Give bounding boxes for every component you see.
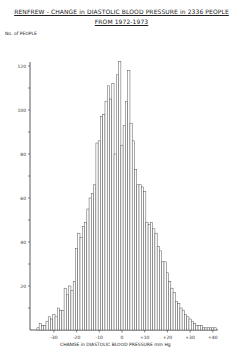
histogram-bar <box>73 282 75 330</box>
y-tick-label: 20 <box>20 284 26 289</box>
histogram-bar <box>198 326 200 330</box>
histogram-bar <box>200 326 202 330</box>
histogram-bar <box>189 319 191 330</box>
histogram-bar <box>75 249 77 330</box>
histogram-bar <box>60 310 62 330</box>
histogram-bar <box>87 209 89 330</box>
histogram-bar <box>146 222 148 330</box>
histogram-bar <box>48 317 50 330</box>
histogram-bar <box>159 251 161 330</box>
histogram-bar <box>62 310 64 330</box>
histogram-bar <box>207 328 209 330</box>
histogram-bar <box>194 323 196 330</box>
histogram-bar <box>141 187 143 330</box>
x-tick-label: -10 <box>96 335 103 340</box>
histogram-bar <box>169 282 171 330</box>
histogram-bar <box>125 101 127 330</box>
x-tick-label: +20 <box>163 335 173 340</box>
x-tick-label: +30 <box>185 335 195 340</box>
histogram-bar <box>107 86 109 330</box>
histogram-bar <box>187 317 189 330</box>
y-tick-label: 40 <box>20 240 26 245</box>
histogram-bar <box>162 262 164 330</box>
histogram-bar <box>164 262 166 330</box>
histogram-bar <box>112 84 114 330</box>
histogram-bar <box>78 233 80 330</box>
histogram-bar <box>98 141 100 330</box>
histogram-bar <box>130 123 132 330</box>
x-axis-label: CHANGE in DIASTOLIC BLOOD PRESSURE mm Hg <box>60 342 171 347</box>
y-tick-label: 120 <box>17 64 26 69</box>
histogram-bar <box>191 321 193 330</box>
y-tick-label: 80 <box>20 152 26 157</box>
histogram-bar <box>44 326 46 330</box>
histogram-bar <box>57 308 59 330</box>
histogram-bar <box>50 319 52 330</box>
x-tick-label: 0 <box>121 335 124 340</box>
histogram-bar <box>103 114 105 330</box>
histogram-bar <box>180 308 182 330</box>
histogram-bar <box>94 185 96 330</box>
histogram-bar <box>71 290 73 330</box>
histogram-bar <box>37 328 39 330</box>
histogram-bar <box>46 321 48 330</box>
histogram-bar <box>212 328 214 330</box>
histogram-bar <box>41 326 43 330</box>
histogram-bar <box>203 328 205 330</box>
histogram-bar <box>105 101 107 330</box>
histogram-bar <box>64 288 66 330</box>
histogram-bar <box>137 185 139 330</box>
histogram-bar <box>214 328 216 330</box>
histogram-bar <box>55 317 57 330</box>
histogram-bar <box>119 62 121 330</box>
histogram-bar <box>66 295 68 330</box>
histogram-bar <box>69 286 71 330</box>
histogram-bar <box>85 222 87 330</box>
histogram-bar <box>184 315 186 330</box>
histogram-bar <box>171 288 173 330</box>
histogram-bar <box>205 328 207 330</box>
histogram-bar <box>173 293 175 330</box>
x-tick-label: -20 <box>73 335 80 340</box>
histogram-bar <box>96 143 98 330</box>
histogram-bar <box>121 145 123 330</box>
histogram-bar <box>182 310 184 330</box>
x-tick-label: +40 <box>208 335 218 340</box>
histogram-bar <box>209 328 211 330</box>
histogram-bar <box>153 229 155 330</box>
histogram-bar <box>166 273 168 330</box>
histogram-bar <box>196 326 198 330</box>
histogram-bar <box>139 185 141 330</box>
histogram-bar <box>89 198 91 330</box>
histogram-bar <box>114 154 116 330</box>
x-tick-label: +10 <box>140 335 150 340</box>
histogram-bar <box>155 233 157 330</box>
histogram-bar <box>157 246 159 330</box>
y-tick-label: 100 <box>17 108 26 113</box>
histogram-bar <box>100 117 102 330</box>
histogram-bar <box>39 323 41 330</box>
histogram-bar <box>178 304 180 330</box>
histogram-bar <box>82 227 84 330</box>
histogram-bar <box>150 222 152 330</box>
histogram-bar <box>175 301 177 330</box>
histogram-bar <box>134 169 136 330</box>
x-tick-label: -30 <box>50 335 57 340</box>
histogram: 20406080100120-30-20-100+10+20+30+40 <box>0 0 243 360</box>
histogram-bar <box>53 315 55 330</box>
y-tick-label: 60 <box>20 196 26 201</box>
histogram-bar <box>128 70 130 330</box>
histogram-bar <box>148 224 150 330</box>
histogram-bar <box>91 194 93 330</box>
histogram-bar <box>110 99 112 330</box>
histogram-bar <box>116 75 118 330</box>
histogram-bar <box>132 141 134 330</box>
histogram-bar <box>123 125 125 330</box>
histogram-bar <box>144 191 146 330</box>
histogram-bar <box>80 238 82 330</box>
